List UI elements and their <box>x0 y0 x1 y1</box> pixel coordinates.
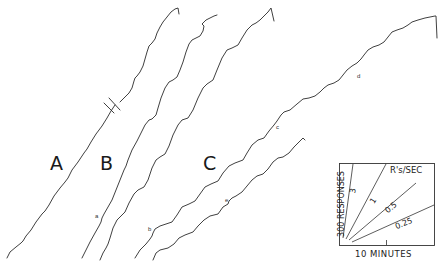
break-mark-2 <box>109 98 120 110</box>
inset-x-axis-label: 10 MINUTES <box>355 250 412 259</box>
records-plot <box>0 0 445 270</box>
curve-b1 <box>82 15 217 258</box>
curve-a-upper <box>120 8 179 102</box>
panel-label-a: A <box>50 154 63 173</box>
curve-c2 <box>153 138 305 260</box>
inset-y-axis-label: 300 RESPONSES <box>338 164 346 244</box>
panel-label-b: B <box>100 154 113 173</box>
inset-legend-title: R's/SEC <box>390 166 422 175</box>
marker-a: a <box>95 213 98 219</box>
marker-d: d <box>357 73 360 79</box>
curve-c1 <box>135 16 437 258</box>
panel-label-c: C <box>203 154 216 173</box>
marker-c: c <box>276 124 279 130</box>
curve-b2 <box>100 8 274 260</box>
cumulative-record-figure: A B C a b c d e 300 RESPONSES 10 MINUTES… <box>0 0 445 270</box>
rate-line-0-5 <box>349 183 416 240</box>
marker-b: b <box>148 226 151 232</box>
curve-a <box>7 105 115 258</box>
marker-e: e <box>225 197 228 203</box>
rate-line-1 <box>346 164 386 239</box>
